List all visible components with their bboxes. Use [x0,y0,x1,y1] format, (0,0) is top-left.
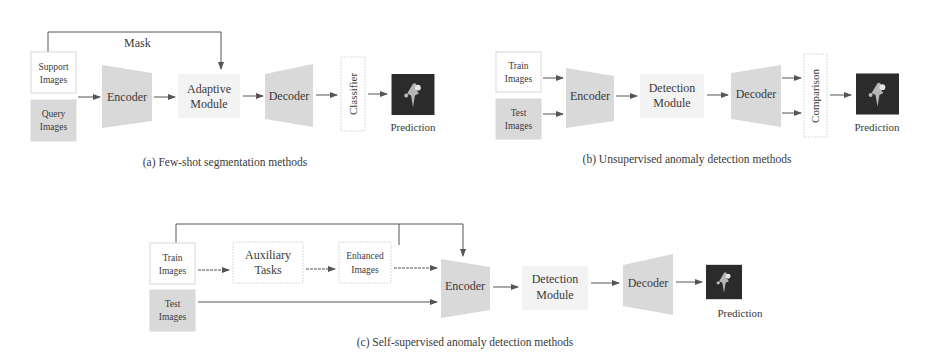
test-label-2: Images [505,121,533,131]
support-label-2: Images [40,75,68,85]
detection-label: Detection [532,272,579,286]
train-images-box [496,52,541,92]
decoder-label: Decoder [736,87,777,101]
test-images-box [496,99,541,139]
prediction-image [706,265,742,299]
query-label: Query [42,109,66,119]
prediction-label: Prediction [390,121,436,133]
panel-a: Mask Support Images Query Images Encoder… [31,32,436,169]
decoder-label: Decoder [628,276,669,290]
query-images-box [31,100,76,141]
test-label-2: Images [159,312,187,322]
prediction-image [392,74,435,115]
test-label: Test [165,299,181,309]
comparison-label: Comparison [809,69,821,123]
query-label-2: Images [40,122,68,132]
train-label: Train [508,61,528,71]
support-label: Support [38,62,68,72]
support-images-box [31,52,76,93]
detection-label: Detection [649,81,696,95]
detection-label-2: Module [653,96,690,110]
adaptive-label-2: Module [190,97,227,111]
enhanced-images-box [339,242,391,283]
caption-c: (c) Self-supervised anomaly detection me… [357,336,574,349]
enhanced-label: Enhanced [346,251,384,261]
prediction-label: Prediction [717,307,763,319]
auxiliary-label-2: Tasks [254,263,281,277]
auxiliary-label: Auxiliary [245,248,291,262]
train-label: Train [162,253,182,263]
prediction-label: Prediction [854,121,900,133]
caption-b: (b) Unsupervised anomaly detection metho… [583,153,792,166]
encoder-label: Encoder [570,89,610,103]
panel-c: Train Images Test Images Auxiliary Tasks… [150,224,763,349]
panel-b: Train Images Test Images Encoder Detecti… [496,52,900,166]
test-images-box [150,290,195,331]
encoder-label: Encoder [107,90,147,104]
detection-label-2: Module [536,288,573,302]
diagram-canvas: Mask Support Images Query Images Encoder… [0,0,935,363]
prediction-image [856,73,899,114]
train-label-2: Images [505,74,533,84]
adaptive-module-box [178,74,240,118]
caption-a: (a) Few-shot segmentation methods [143,156,308,169]
adaptive-label: Adaptive [187,82,231,96]
mask-label: Mask [124,36,151,50]
train-label-2: Images [159,266,187,276]
classifier-label: Classifier [347,73,359,115]
train-images-box [150,243,195,284]
decoder-label: Decoder [269,89,310,103]
encoder-label: Encoder [445,279,485,293]
enhanced-label-2: Images [351,265,379,275]
test-label: Test [511,108,527,118]
